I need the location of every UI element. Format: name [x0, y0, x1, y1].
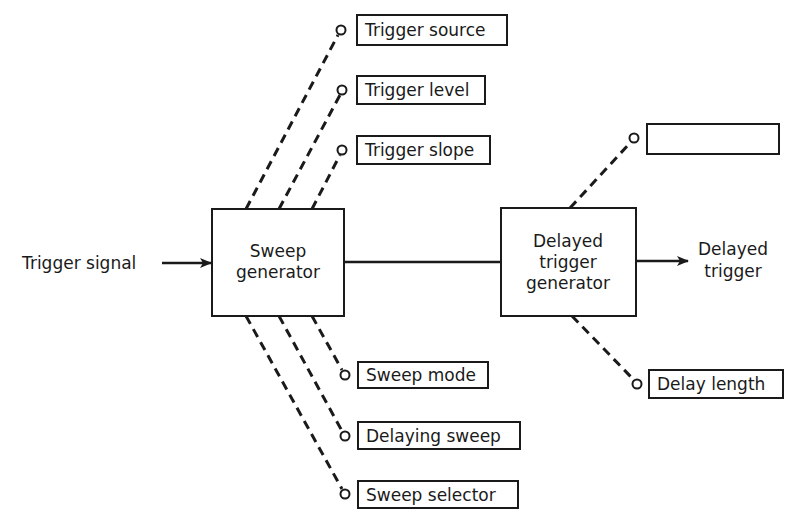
unlabeled-control-connector	[570, 143, 630, 208]
dtg-line2: trigger	[539, 252, 596, 272]
sweep-mode-label: Sweep mode	[366, 365, 476, 385]
control-knob-icon[interactable]	[338, 146, 347, 155]
control-knob-icon[interactable]	[633, 380, 642, 389]
control-delaying-sweep[interactable]: Delaying sweep	[341, 422, 521, 449]
dtg-line1: Delayed	[533, 231, 603, 251]
delayed-trigger-line1: Delayed	[698, 239, 768, 259]
sweep-generator-block: Sweep generator	[212, 209, 344, 316]
delayed-trigger-line2: trigger	[704, 261, 761, 281]
control-delay-length[interactable]: Delay length	[633, 370, 784, 398]
trigger-slope-label: Trigger slope	[364, 140, 474, 160]
delay-length-label: Delay length	[657, 374, 765, 394]
control-knob-icon[interactable]	[341, 371, 350, 380]
sweep-top-connectors	[246, 35, 340, 209]
control-knob-icon[interactable]	[341, 432, 350, 441]
sweep-mode-connector	[312, 316, 342, 370]
sweep-selector-label: Sweep selector	[366, 485, 496, 505]
trigger-level-connector	[279, 95, 340, 209]
trigger-slope-connector	[312, 155, 340, 209]
control-sweep-selector[interactable]: Sweep selector	[341, 481, 519, 508]
output-delayed-trigger: Delayed trigger	[636, 239, 768, 281]
control-knob-icon[interactable]	[338, 86, 347, 95]
input-trigger-signal: Trigger signal	[21, 253, 211, 273]
delayed-trigger-generator-block: Delayed trigger generator	[501, 208, 636, 316]
dtg-line3: generator	[526, 273, 610, 293]
sweep-bottom-connectors	[246, 316, 342, 489]
trigger-level-label: Trigger level	[364, 80, 469, 100]
sweep-generator-line1: Sweep	[250, 241, 306, 261]
block-diagram: Trigger signal Sweep generator Delayed t…	[0, 0, 805, 527]
trigger-source-label: Trigger source	[364, 20, 486, 40]
control-trigger-level[interactable]: Trigger level	[338, 76, 486, 104]
delay-length-connector	[572, 316, 633, 379]
control-knob-icon[interactable]	[630, 134, 639, 143]
control-trigger-source[interactable]: Trigger source	[337, 15, 508, 45]
control-knob-icon[interactable]	[341, 490, 350, 499]
control-sweep-mode[interactable]: Sweep mode	[341, 362, 489, 388]
diagram-canvas: Trigger signal Sweep generator Delayed t…	[0, 0, 805, 527]
control-knob-icon[interactable]	[337, 26, 346, 35]
control-unlabeled[interactable]	[630, 124, 780, 154]
delaying-sweep-label: Delaying sweep	[366, 426, 501, 446]
delaying-sweep-connector	[279, 316, 342, 431]
trigger-signal-label: Trigger signal	[21, 253, 136, 273]
sweep-generator-line2: generator	[236, 262, 320, 282]
control-trigger-slope[interactable]: Trigger slope	[338, 136, 491, 164]
